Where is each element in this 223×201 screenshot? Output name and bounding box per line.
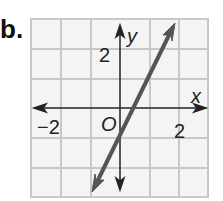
x-tick-2: 2 <box>174 120 185 142</box>
coordinate-graph: 2 y x −2 O 2 <box>0 0 223 201</box>
y-axis-label: y <box>125 25 138 47</box>
x-tick-neg2: −2 <box>37 116 60 138</box>
origin-label: O <box>101 113 117 135</box>
x-axis-label: x <box>190 85 202 107</box>
y-tick-2: 2 <box>99 44 110 66</box>
